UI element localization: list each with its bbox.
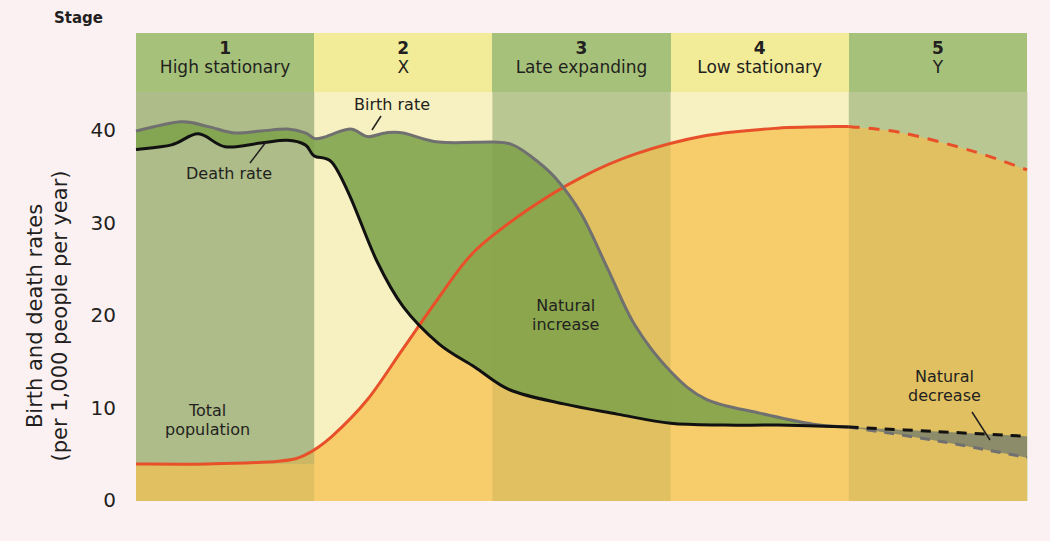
stage-name: Late expanding [492,58,670,77]
stage-number: 3 [492,39,670,58]
natural-decrease-line-2: decrease [908,386,981,405]
stage-name: Y [849,58,1027,77]
stage-number: 2 [314,39,492,58]
stage-header-1: 1High stationary [136,33,314,92]
y-tick-20: 20 [76,303,116,327]
natural-decrease-line-1: Natural [908,367,981,386]
natural-increase-line-1: Natural [532,296,599,315]
stage-axis-title: Stage [54,9,103,27]
y-tick-0: 0 [76,488,116,512]
stage-header-4: 4Low stationary [671,33,849,92]
y-tick-10: 10 [76,396,116,420]
total-population-line-1: Total [165,401,250,420]
stage-name: High stationary [136,58,314,77]
stage-name: X [314,58,492,77]
total-population-line-2: population [165,420,250,439]
stage-header-5: 5Y [849,33,1027,92]
natural-increase-label: Natural increase [532,296,599,334]
y-axis-label-line-1: Birth and death rates [23,126,48,506]
stage-name: Low stationary [671,58,849,77]
stage-header-2: 2X [314,33,492,92]
death-rate-label: Death rate [186,164,272,183]
y-axis-label: Birth and death rates (per 1,000 people … [23,126,73,506]
stage-number: 4 [671,39,849,58]
natural-decrease-label: Natural decrease [908,367,981,405]
natural-increase-line-2: increase [532,315,599,334]
stage-number: 5 [849,39,1027,58]
total-population-label: Total population [165,401,250,439]
stage-header-3: 3Late expanding [492,33,670,92]
birth-rate-label: Birth rate [354,95,430,114]
y-axis-label-line-2: (per 1,000 people per year) [48,126,73,506]
y-tick-40: 40 [76,118,116,142]
stage-number: 1 [136,39,314,58]
y-tick-30: 30 [76,211,116,235]
